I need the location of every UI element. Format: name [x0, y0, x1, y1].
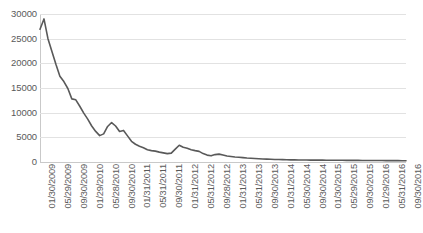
data-series-line — [40, 14, 406, 162]
x-axis-tick-label: 05/31/2016 — [397, 164, 407, 233]
x-axis-tick-label: 09/30/2011 — [174, 164, 184, 233]
y-axis-tick-label: 10000 — [1, 108, 37, 118]
x-axis-tick-label: 01/31/2011 — [142, 164, 152, 233]
x-axis-tick-label: 05/31/2011 — [158, 164, 168, 233]
x-axis-tick-label: 01/31/2013 — [238, 164, 248, 233]
x-axis-tick-label: 09/30/2015 — [365, 164, 375, 233]
x-axis-tick-label: 05/29/2009 — [63, 164, 73, 233]
x-axis-tick-label: 01/29/2016 — [381, 164, 391, 233]
x-axis-tick-label: 05/29/2015 — [349, 164, 359, 233]
y-axis-tick-label: 5000 — [1, 132, 37, 142]
x-axis-tick-label: 09/30/2014 — [318, 164, 328, 233]
x-axis-tick-label: 05/30/2014 — [302, 164, 312, 233]
y-axis-tick-label: 20000 — [1, 58, 37, 68]
axis-baseline — [40, 162, 406, 163]
x-axis-labels: 01/30/200905/29/200909/30/200901/29/2010… — [40, 164, 414, 233]
x-axis-tick-label: 09/30/2010 — [127, 164, 137, 233]
x-axis-tick-label: 01/30/2009 — [47, 164, 57, 233]
x-axis-tick-label: 05/31/2013 — [254, 164, 264, 233]
x-axis-tick-label: 01/29/2010 — [95, 164, 105, 233]
y-axis-tick-label: 25000 — [1, 34, 37, 44]
y-axis-tick-label: 0 — [1, 157, 37, 167]
x-axis-tick-label: 01/31/2012 — [190, 164, 200, 233]
y-axis-tick-label: 30000 — [1, 9, 37, 19]
x-axis-tick-label: 09/30/2013 — [270, 164, 280, 233]
series-polyline — [40, 19, 406, 161]
plot-area — [40, 14, 406, 162]
y-axis-tick-label: 15000 — [1, 83, 37, 93]
x-axis-tick-label: 09/30/2009 — [79, 164, 89, 233]
x-axis-tick-label: 05/31/2012 — [206, 164, 216, 233]
x-axis-tick-label: 09/30/2016 — [413, 164, 423, 233]
x-axis-tick-label: 01/30/2015 — [333, 164, 343, 233]
x-axis-tick-label: 01/31/2014 — [286, 164, 296, 233]
x-axis-tick-label: 05/28/2010 — [111, 164, 121, 233]
y-axis-labels: 050001000015000200002500030000 — [0, 0, 37, 233]
x-axis-tick-label: 09/28/2012 — [222, 164, 232, 233]
